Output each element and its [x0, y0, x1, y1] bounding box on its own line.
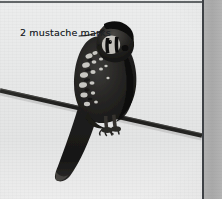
- photo-figure: 2 mustache marks: [0, 0, 202, 199]
- photo-vignette: [0, 0, 202, 199]
- right-margin-column: [204, 0, 222, 199]
- field-guide-page: 2 mustache marks: [0, 0, 222, 199]
- right-margin-grain: [204, 0, 222, 199]
